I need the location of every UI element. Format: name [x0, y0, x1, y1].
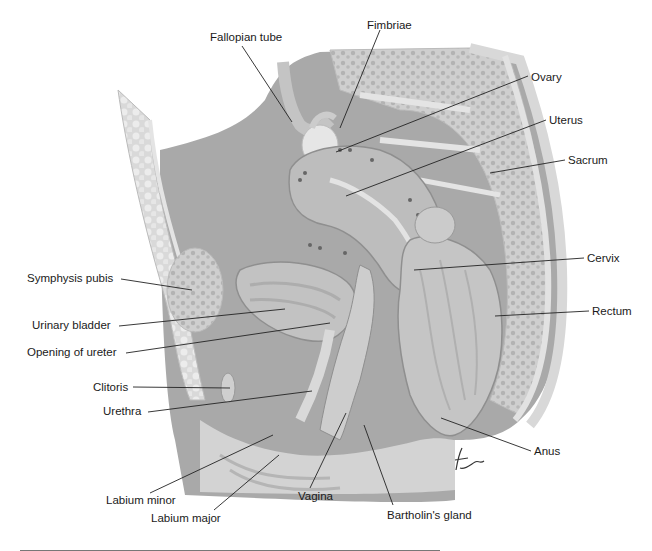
label-labium-minor: Labium minor: [106, 495, 176, 507]
label-urinary-bladder: Urinary bladder: [32, 320, 111, 332]
label-clitoris: Clitoris: [93, 382, 128, 394]
label-opening-of-ureter: Opening of ureter: [27, 347, 117, 359]
label-anus: Anus: [534, 446, 560, 458]
symphysis-pubis-bone: [167, 248, 223, 332]
label-fallopian-tube: Fallopian tube: [210, 32, 282, 44]
label-urethra: Urethra: [103, 406, 141, 418]
label-rectum: Rectum: [592, 306, 632, 318]
label-labium-major: Labium major: [151, 513, 221, 525]
artist-signature: [455, 448, 484, 470]
label-uterus: Uterus: [549, 115, 583, 127]
label-vagina: Vagina: [298, 491, 333, 503]
label-fimbriae: Fimbriae: [367, 20, 412, 32]
label-symphysis-pubis: Symphysis pubis: [27, 273, 113, 285]
label-sacrum: Sacrum: [568, 155, 608, 167]
label-bartholins-gland: Bartholin's gland: [387, 510, 472, 522]
label-ovary: Ovary: [531, 72, 562, 84]
label-cervix: Cervix: [587, 253, 620, 265]
